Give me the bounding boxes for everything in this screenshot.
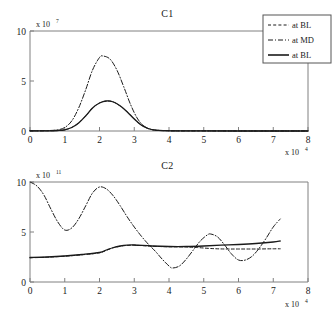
plot-area-c2: 012345678 0510 x 10 11 x 10 4 [0,157,335,315]
y-tick-label: 5 [21,77,26,87]
x-tick-label: 4 [167,286,172,296]
y-tick-label: 10 [17,27,27,37]
series-line-2 [30,101,308,131]
series-line-0 [30,182,280,268]
y-exponent-prefix-c2: x 10 [36,171,50,180]
axes-c2 [30,182,308,282]
x-tick-label: 3 [132,286,137,296]
x-tick-label: 8 [306,286,311,296]
x-tick-label: 6 [236,286,241,296]
y-tick-marks-c1 [30,31,34,131]
series-line-1 [30,101,308,131]
x-tick-labels-c2: 012345678 [28,286,311,296]
x-tick-label: 2 [97,135,102,145]
axes-c1 [30,31,308,131]
y-tick-labels-c1: 0510 [17,27,27,137]
y-exponent-c1: 7 [56,18,59,24]
x-exponent-prefix-c2: x 10 [285,300,299,309]
x-tick-marks-c2 [30,278,308,282]
y-tick-labels-c2: 0510 [17,178,27,288]
x-tick-label: 0 [28,286,33,296]
x-tick-label: 1 [62,286,67,296]
x-tick-label: 5 [201,286,206,296]
data-series-c2 [30,182,280,268]
x-tick-label: 2 [97,286,102,296]
x-tick-label: 3 [132,135,137,145]
x-tick-label: 7 [271,286,276,296]
y-tick-label: 0 [21,127,26,137]
x-tick-label: 5 [201,135,206,145]
plot-area-c1: 012345678 0510 x 10 7 x 10 4 [0,0,335,160]
y-tick-label: 10 [17,178,27,188]
y-tick-label: 5 [21,228,26,238]
y-tick-label: 0 [21,278,26,288]
x-tick-labels-c1: 012345678 [28,135,311,145]
x-tick-label: 6 [236,135,241,145]
x-tick-label: 4 [167,135,172,145]
series-line-0 [30,56,308,131]
y-exponent-c2: 11 [56,169,62,175]
chart-panel-c1: C1 012345678 0510 x 10 7 x 10 4 at BL [0,0,335,160]
data-series-c1 [30,56,308,131]
y-exponent-prefix-c1: x 10 [36,20,50,29]
x-exponent-c2: 4 [305,298,308,304]
y-tick-marks-c2 [30,182,34,282]
chart-panel-c2: C2 012345678 0510 x 10 11 x 10 4 [0,157,335,315]
x-tick-label: 7 [271,135,276,145]
x-exponent-prefix-c1: x 10 [285,148,299,157]
x-tick-label: 0 [28,135,33,145]
x-tick-label: 8 [306,135,311,145]
x-exponent-c1: 4 [305,146,308,152]
figure-root: C1 012345678 0510 x 10 7 x 10 4 at BL [0,0,335,315]
x-tick-label: 1 [62,135,67,145]
